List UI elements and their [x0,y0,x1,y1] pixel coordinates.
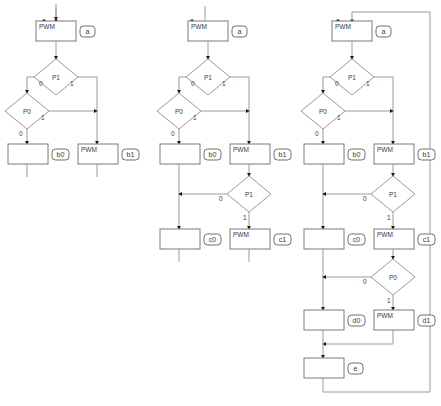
node-c0-3[interactable] [304,229,344,249]
decision-p1b-3-label: P1 [389,191,397,198]
node-b1-1-label: PWM [81,146,97,153]
branch-p1-3-zero: 0 [335,80,339,87]
decision-p0-2-label: P0 [175,108,183,115]
edge-e-loop-bottom-3 [323,378,430,392]
branch-p1-2-zero: 0 [191,80,195,87]
decision-p1-3-label: P1 [348,74,356,81]
node-e-3[interactable] [304,358,344,378]
branch-p0-3-zero: 0 [315,130,319,137]
tag-d1-3-label: d1 [423,317,431,324]
branch-p1b-2-one: 1 [243,214,247,221]
branch-p0-1-one: 1 [41,114,45,121]
edge-p1-zero-1 [27,77,34,93]
tag-b1-3-label: b1 [423,151,431,158]
branch-p0-2-one: 1 [193,114,197,121]
branch-p1-1-zero: 0 [39,80,43,87]
branch-p0b-3-zero: 0 [363,278,367,285]
tag-c0-2-label: c0 [209,236,217,243]
node-b0-1[interactable] [8,144,48,164]
edge-p1-one-3 [374,77,393,112]
node-c0-2[interactable] [160,229,200,249]
node-b1-2-label: PWM [233,146,249,153]
edge-d1-merge-3 [323,330,393,344]
decision-p0-3-label: P0 [319,108,327,115]
node-d0-3[interactable] [304,310,344,330]
tag-b1-1-label: b1 [127,151,135,158]
tag-c1-3-label: c1 [423,236,431,243]
node-c1-3-label: PWM [377,231,393,238]
tag-b0-2-label: b0 [209,151,217,158]
tag-a-2-label: a [238,28,242,35]
branch-p1-2-one: 1 [222,80,226,87]
branch-p0b-3-one: 1 [387,297,391,304]
node-a-1-label: PWM [39,23,55,30]
edge-p1-one-2 [230,77,249,112]
edge-p1-one-1 [78,77,97,112]
branch-p1-1-one: 1 [70,80,74,87]
tag-b0-3-label: b0 [353,151,361,158]
decision-p0b-3-label: P0 [389,274,397,281]
edge-p1-zero-2 [179,77,186,93]
node-b0-3[interactable] [304,144,344,164]
tag-c0-3-label: c0 [353,236,361,243]
branch-p1b-3-zero: 0 [363,195,367,202]
column-stage-3: PWM a P1 0 1 P0 1 0 b0 PWM b1 P1 0 1 [301,12,435,392]
tag-a-3-label: a [382,28,386,35]
branch-p0-1-zero: 0 [19,130,23,137]
tag-c1-2-label: c1 [279,236,287,243]
branch-p0-3-one: 1 [337,114,341,121]
decision-p0-1-label: P0 [23,108,31,115]
column-stage-1: PWM a P1 0 1 P0 1 0 b0 PWM b1 [5,4,139,177]
decision-p1-2-label: P1 [204,74,212,81]
node-c1-2-label: PWM [233,231,249,238]
tag-e-3-label: e [354,365,358,372]
tag-a-1-label: a [86,28,90,35]
tag-b1-2-label: b1 [279,151,287,158]
branch-p1b-2-zero: 0 [219,195,223,202]
column-stage-2: PWM a P1 0 1 P0 1 0 b0 PWM b1 P1 0 1 [157,6,291,262]
node-d1-3-label: PWM [377,312,393,319]
tag-d0-3-label: d0 [353,317,361,324]
decision-p1-1-label: P1 [52,74,60,81]
node-b1-3-label: PWM [377,146,393,153]
node-b0-2[interactable] [160,144,200,164]
branch-p0-2-zero: 0 [171,130,175,137]
flowchart-diagram: PWM a P1 0 1 P0 1 0 b0 PWM b1 [0,0,441,406]
decision-p1b-2-label: P1 [245,191,253,198]
node-a-2-label: PWM [191,23,207,30]
node-a-3-label: PWM [335,23,351,30]
flowchart-canvas: PWM a P1 0 1 P0 1 0 b0 PWM b1 [0,0,441,406]
branch-p1b-3-one: 1 [387,214,391,221]
edge-p1-zero-3 [323,77,330,93]
branch-p1-3-one: 1 [366,80,370,87]
tag-b0-1-label: b0 [57,151,65,158]
